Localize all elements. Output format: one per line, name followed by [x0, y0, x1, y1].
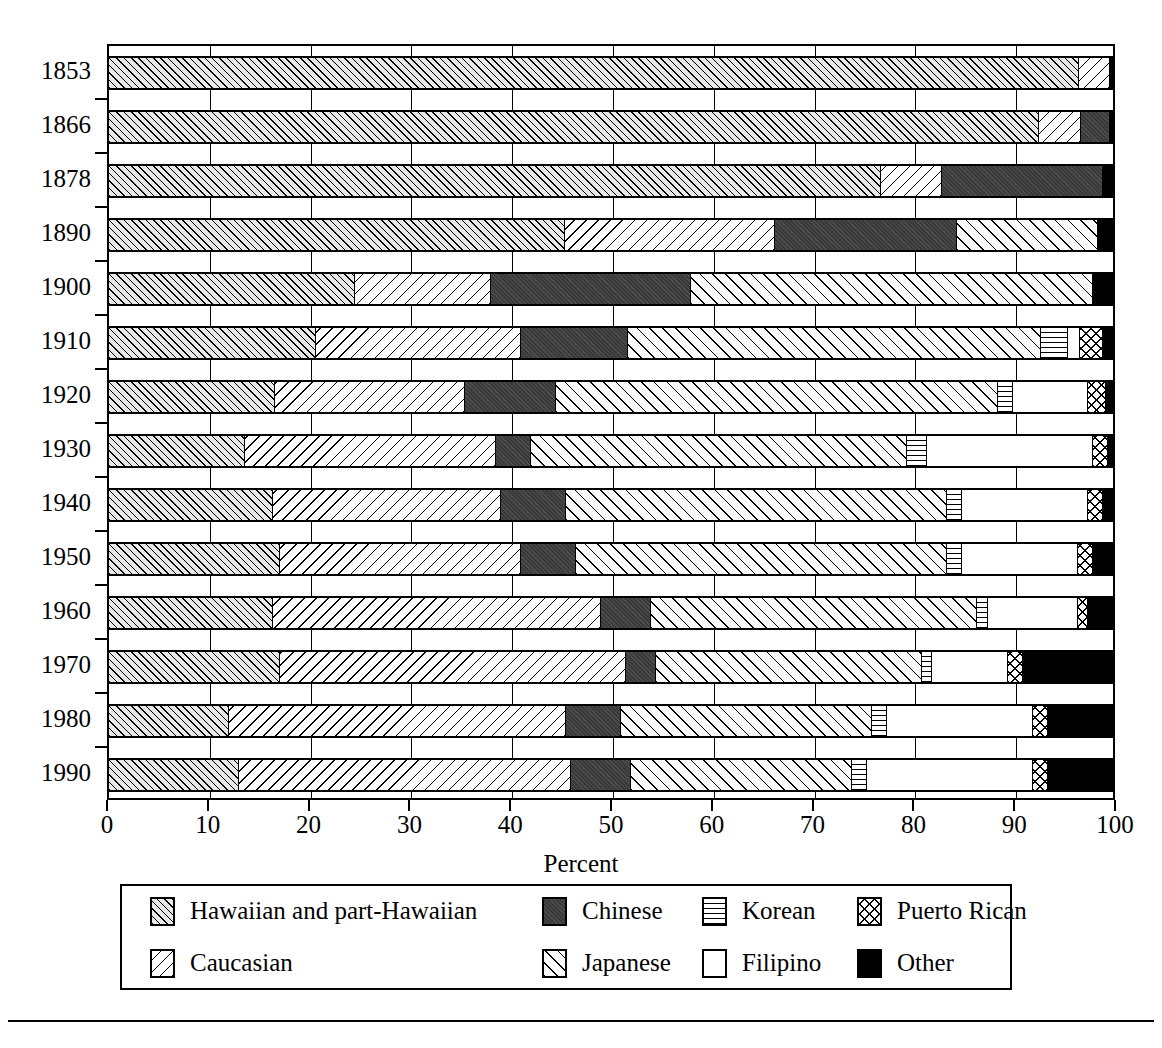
bar-segment: [109, 652, 280, 682]
plot-area: [107, 44, 1115, 800]
bar-segment: [656, 652, 922, 682]
x-tick-label-50: 50: [599, 812, 624, 837]
stacked-bar-1890: [109, 218, 1113, 252]
legend-item-hawaiian-and-part-hawaiian[interactable]: Hawaiian and part-Hawaiian: [150, 886, 477, 936]
bar-segment: [775, 220, 958, 250]
bar-segment: [109, 436, 245, 466]
bar-segment: [1108, 436, 1113, 466]
bar-segment: [1110, 58, 1113, 88]
bar-segment: [927, 436, 1093, 466]
bar-segment: [566, 490, 948, 520]
bar-segment: [239, 760, 571, 790]
bar-segment: [1041, 328, 1068, 358]
bar-segment: [355, 274, 491, 304]
bar-row: [109, 488, 1113, 522]
y-tick-mark: [95, 314, 107, 316]
y-tick-label-1930: 1930: [41, 436, 91, 461]
bar-segment: [1088, 490, 1103, 520]
bar-segment: [566, 706, 621, 736]
bar-segment: [501, 490, 566, 520]
legend-row-top: Hawaiian and part-HawaiianChineseKoreanP…: [122, 886, 1010, 936]
legend: Hawaiian and part-HawaiianChineseKoreanP…: [120, 884, 1012, 990]
legend-item-korean[interactable]: Korean: [702, 886, 816, 936]
bar-segment: [1068, 328, 1080, 358]
bar-segment: [621, 706, 872, 736]
bar-segment: [109, 220, 565, 250]
legend-label: Chinese: [582, 897, 663, 925]
x-tick-mark-90: [1013, 800, 1015, 811]
x-tick-label-10: 10: [195, 812, 220, 837]
bar-segment: [531, 436, 908, 466]
y-tick-mark: [95, 98, 107, 100]
bar-segment: [1093, 544, 1113, 574]
bar-row: [109, 704, 1113, 738]
bar-segment: [1110, 112, 1113, 142]
bar-segment: [109, 58, 1079, 88]
x-tick-label-20: 20: [296, 812, 321, 837]
bar-segment: [1078, 598, 1088, 628]
bar-segment: [491, 274, 692, 304]
bar-segment: [601, 598, 651, 628]
bar-segment: [922, 652, 932, 682]
bar-segment: [852, 760, 867, 790]
legend-item-chinese[interactable]: Chinese: [542, 886, 663, 936]
legend-label: Hawaiian and part-Hawaiian: [190, 897, 477, 925]
y-tick-label-1853: 1853: [41, 58, 91, 83]
bar-rows: [109, 46, 1113, 798]
legend-label: Filipino: [742, 949, 821, 977]
bar-row: [109, 650, 1113, 684]
x-tick-label-90: 90: [1002, 812, 1027, 837]
x-tick-mark-20: [308, 800, 310, 811]
bar-segment: [1080, 328, 1103, 358]
y-tick-label-1950: 1950: [41, 544, 91, 569]
legend-item-filipino[interactable]: Filipino: [702, 938, 821, 988]
bar-segment: [109, 112, 1039, 142]
x-tick-label-0: 0: [101, 812, 114, 837]
bar-segment: [1008, 652, 1023, 682]
x-axis-title: Percent: [0, 850, 1162, 878]
legend-item-caucasian[interactable]: Caucasian: [150, 938, 293, 988]
legend-label: Japanese: [582, 949, 671, 977]
footer-rule: [8, 1020, 1154, 1022]
bar-segment: [1098, 220, 1113, 250]
x-tick-mark-70: [812, 800, 814, 811]
bar-segment: [273, 490, 501, 520]
x-tick-label-40: 40: [498, 812, 523, 837]
legend-swatch-icon: [857, 949, 882, 978]
bar-segment: [887, 706, 1033, 736]
x-tick-label-60: 60: [699, 812, 724, 837]
legend-label: Other: [897, 949, 954, 977]
bar-segment: [1088, 598, 1113, 628]
x-tick-label-80: 80: [901, 812, 926, 837]
legend-item-japanese[interactable]: Japanese: [542, 938, 671, 988]
y-tick-mark: [95, 152, 107, 154]
bar-row: [109, 326, 1113, 360]
y-tick-label-1900: 1900: [41, 274, 91, 299]
legend-item-other[interactable]: Other: [857, 938, 954, 988]
bar-row: [109, 56, 1113, 90]
x-tick-label-100: 100: [1096, 812, 1134, 837]
legend-item-puerto-rican[interactable]: Puerto Rican: [857, 886, 1027, 936]
bar-segment: [947, 544, 962, 574]
bar-segment: [1039, 112, 1081, 142]
y-tick-label-1980: 1980: [41, 706, 91, 731]
legend-label: Korean: [742, 897, 816, 925]
x-tick-mark-100: [1114, 800, 1116, 811]
y-tick-label-1910: 1910: [41, 328, 91, 353]
stacked-bar-1900: [109, 272, 1113, 306]
legend-label: Puerto Rican: [897, 897, 1027, 925]
y-tick-label-1960: 1960: [41, 598, 91, 623]
legend-swatch-icon: [857, 897, 882, 926]
stacked-bar-1878: [109, 164, 1113, 198]
bar-segment: [109, 490, 273, 520]
stacked-bar-1950: [109, 542, 1113, 576]
x-tick-label-30: 30: [397, 812, 422, 837]
bar-segment: [988, 598, 1078, 628]
bar-segment: [109, 598, 273, 628]
bar-segment: [872, 706, 887, 736]
y-tick-mark: [95, 530, 107, 532]
bar-segment: [942, 166, 1102, 196]
y-tick-mark: [95, 422, 107, 424]
x-tick-mark-0: [106, 800, 108, 811]
bar-segment: [1033, 706, 1048, 736]
